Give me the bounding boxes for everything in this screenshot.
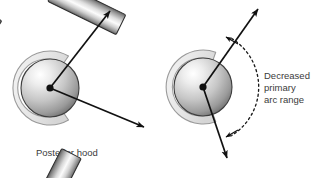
upper-motion-arrow-right — [203, 9, 258, 87]
left-panel-normal-arc: Posterior hood — [0, 0, 144, 158]
pivot-dot-right — [199, 83, 206, 90]
lower-arm-left — [48, 0, 126, 35]
upper-arm-left — [0, 9, 2, 81]
arc-annotation-line2: primary — [264, 82, 296, 93]
joint-arc-diagram: Posterior hood — [0, 0, 325, 178]
arc-annotation-line3: arc range — [264, 94, 304, 105]
upper-motion-arrow-left — [50, 11, 110, 88]
pivot-dot-left — [46, 84, 53, 91]
figure-root: Posterior hood — [0, 0, 325, 178]
arc-annotation-line1: Decreased — [264, 70, 310, 81]
